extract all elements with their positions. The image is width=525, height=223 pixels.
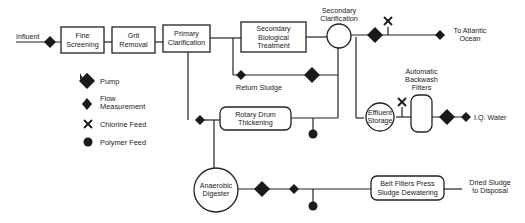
grit-removal-box: Grit Removal (112, 27, 155, 53)
flow-measurement-icon (44, 36, 56, 48)
svg-text:Thickening: Thickening (238, 118, 273, 127)
dried-sludge-label-2: to Disposal (472, 186, 508, 195)
to-ocean-label-2: Ocean (459, 34, 480, 43)
chlorine-feed-icon (84, 120, 92, 128)
svg-text:Removal: Removal (119, 40, 148, 49)
pump-icon (304, 67, 320, 83)
svg-text:Digester: Digester (203, 189, 230, 198)
svg-text:Treatment: Treatment (257, 41, 290, 50)
svg-text:Grit: Grit (128, 31, 140, 40)
svg-text:Belt Filters Press: Belt Filters Press (380, 179, 435, 188)
polymer-feed-icon (309, 130, 318, 139)
fine-screening-box: Fine Screening (61, 27, 104, 53)
process-flow-diagram: Fine Screening Grit Removal Primary Clar… (0, 0, 525, 223)
pump-icon (439, 109, 455, 125)
legend: Pump Flow Measurement Chlorine Feed Poly… (79, 73, 146, 147)
polymer-feed-icon (84, 138, 93, 147)
svg-text:Sludge Dewatering: Sludge Dewatering (377, 188, 438, 197)
rotary-drum-thickening-box: Rotary Drum Thickening (220, 107, 291, 130)
flow-measurement-icon (461, 112, 471, 122)
primary-clarification-box: Primary Clarification (163, 25, 210, 52)
iq-water-label: I.Q. Water (474, 113, 507, 122)
svg-text:Primary: Primary (174, 29, 199, 38)
pump-icon (367, 27, 383, 43)
svg-text:Screening: Screening (66, 40, 98, 49)
flow-measurement-icon (195, 115, 205, 125)
svg-text:Clarification: Clarification (320, 14, 358, 23)
flow-measurement-icon (289, 184, 299, 194)
automatic-backwash-filters-node: Automatic Backwash Filters (405, 67, 438, 132)
svg-text:Fine: Fine (76, 31, 90, 40)
svg-text:Storage: Storage (367, 116, 392, 125)
svg-text:Clarification: Clarification (168, 38, 206, 47)
belt-filter-press-box: Belt Filters Press Sludge Dewatering (371, 176, 444, 200)
flow-measurement-icon (82, 98, 92, 110)
legend-pump-label: Pump (100, 77, 119, 86)
effluent-storage-node: Effluent Storage (366, 103, 394, 131)
svg-text:Filters: Filters (412, 83, 432, 92)
anaerobic-digester-node: Anaerobic Digester (194, 168, 238, 212)
chlorine-feed-icon (398, 98, 406, 106)
secondary-biological-treatment-box: Secondary Biological Treatment (241, 22, 306, 52)
legend-polymer-label: Polymer Feed (100, 138, 146, 147)
chlorine-feed-icon (384, 17, 392, 25)
legend-chlorine-label: Chlorine Feed (100, 120, 146, 129)
polymer-feed-icon (309, 202, 318, 211)
flow-measurement-icon (236, 70, 246, 80)
influent-label: Influent (16, 32, 40, 41)
return-sludge-label: Return Sludge (236, 83, 282, 92)
legend-flow-label-2: Measurement (100, 102, 145, 111)
secondary-clarification-node: Secondary Clarification (320, 6, 358, 48)
pump-icon (254, 181, 270, 197)
pump-icon (79, 73, 95, 89)
flow-measurement-icon (435, 30, 445, 40)
